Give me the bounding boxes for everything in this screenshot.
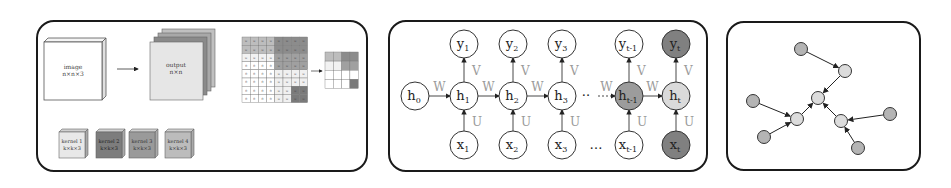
image-cube: image n×n×3	[44, 38, 106, 100]
svg-text:w: w	[278, 39, 281, 43]
ellipsis: …	[590, 137, 603, 152]
diagram-canvas: image n×n×3 output n×n wwwwwwwwwwwwwwwww…	[0, 0, 951, 188]
graph-diagram	[747, 43, 897, 155]
kernel-2: kernel 2k×k×3	[96, 129, 125, 158]
svg-text:w: w	[269, 48, 272, 52]
weight-w-label: W	[646, 80, 659, 94]
svg-text:0: 0	[245, 97, 247, 101]
svg-text:0: 0	[253, 64, 255, 68]
svg-text:w: w	[294, 48, 297, 52]
svg-text:0: 0	[245, 89, 247, 93]
svg-text:0: 0	[262, 97, 264, 101]
svg-text:w: w	[302, 48, 305, 52]
svg-text:w: w	[278, 80, 281, 84]
graph-edge	[807, 52, 838, 68]
weight-u-label: U	[472, 115, 482, 129]
graph-node	[852, 142, 865, 155]
graph-node	[839, 65, 852, 78]
graph-edge	[823, 76, 840, 93]
svg-text:w: w	[294, 39, 297, 43]
svg-text:0: 0	[253, 80, 255, 84]
matrix-cell	[325, 61, 333, 70]
matrix-cell	[350, 79, 358, 88]
graph-node	[884, 108, 897, 121]
weight-u-label: U	[637, 115, 647, 129]
svg-text:0: 0	[253, 72, 255, 76]
graph-edge	[759, 103, 790, 116]
weight-w-label: W	[531, 80, 544, 94]
svg-text:w: w	[253, 48, 256, 52]
matrix-cell	[333, 79, 341, 88]
svg-text:w: w	[302, 39, 305, 43]
svg-text:0: 0	[270, 64, 272, 68]
weight-v-label: V	[683, 64, 693, 78]
svg-text:0: 0	[270, 97, 272, 101]
matrix-cell	[325, 70, 333, 79]
matrix-cell	[350, 70, 358, 79]
graph-edge	[848, 115, 883, 120]
svg-text:w: w	[286, 56, 289, 60]
hidden-node-h2: h2	[499, 82, 527, 110]
svg-text:w: w	[302, 89, 305, 93]
svg-text:w: w	[261, 56, 264, 60]
svg-text:w: w	[294, 97, 297, 101]
matrix-cell	[342, 61, 350, 70]
hidden-node-h1: h1	[450, 82, 478, 110]
matrix-cell	[342, 52, 350, 61]
input-node-x1: x1	[450, 131, 478, 159]
matrix-cell	[333, 70, 341, 79]
input-node-xt-1: xt-1	[615, 131, 643, 159]
kernel-4: kernel 4k×k×3	[165, 129, 194, 158]
matrix-cell	[333, 52, 341, 61]
weight-u-label: U	[570, 115, 580, 129]
hidden-node-h0: h0	[401, 82, 429, 110]
svg-text:w: w	[286, 80, 289, 84]
kernel-label: kernel 1	[62, 138, 83, 144]
svg-text:0: 0	[253, 97, 255, 101]
svg-text:w: w	[302, 64, 305, 68]
svg-text:0: 0	[262, 89, 264, 93]
kernel-1: kernel 1k×k×3	[59, 129, 88, 158]
kernel-label: kernel 3	[132, 138, 153, 144]
graph-edge	[823, 103, 836, 116]
image-dims: n×n×3	[62, 70, 84, 77]
svg-text:w: w	[286, 39, 289, 43]
hidden-node-h3: h3	[548, 82, 576, 110]
hidden-node-ht-1: ht-1	[615, 82, 643, 110]
svg-text:w: w	[294, 80, 297, 84]
graph-node	[835, 115, 848, 128]
hidden-node-ht: ht	[662, 82, 690, 110]
weight-v-label: V	[471, 64, 481, 78]
svg-text:w: w	[286, 64, 289, 68]
output-node-y1: y1	[450, 30, 478, 58]
kernel-label: kernel 4	[168, 138, 189, 144]
svg-text:w: w	[286, 72, 289, 76]
svg-text:0: 0	[270, 80, 272, 84]
svg-text:0: 0	[262, 64, 264, 68]
svg-text:w: w	[278, 64, 281, 68]
graph-node	[795, 43, 808, 56]
svg-text:w: w	[302, 80, 305, 84]
kernel-dims: k×k×3	[169, 145, 187, 151]
weight-matrix: wwwwwwwwwwwwwwwwwwwwwwww0000wwww0000wwww…	[242, 37, 308, 103]
matrix-cell	[350, 52, 358, 61]
svg-text:w: w	[278, 97, 281, 101]
graph-edge	[802, 103, 813, 114]
output-node-yt-1: yt-1	[615, 30, 643, 58]
kernel-row: kernel 1k×k×3kernel 2k×k×3kernel 3k×k×3k…	[59, 129, 194, 158]
output-node-yt: yt	[662, 30, 690, 58]
kernel-dims: k×k×3	[63, 145, 81, 151]
svg-text:w: w	[286, 89, 289, 93]
graph-node	[791, 113, 804, 126]
matrix-cell	[342, 79, 350, 88]
graph-node	[747, 95, 760, 108]
svg-text:0: 0	[262, 72, 264, 76]
graph-edge	[770, 123, 791, 134]
svg-text:w: w	[278, 48, 281, 52]
kernel-dims: k×k×3	[133, 145, 151, 151]
weight-w-label: W	[600, 80, 613, 94]
svg-text:w: w	[286, 48, 289, 52]
svg-text:w: w	[245, 56, 248, 60]
input-node-xt: xt	[662, 131, 690, 159]
svg-text:w: w	[261, 48, 264, 52]
